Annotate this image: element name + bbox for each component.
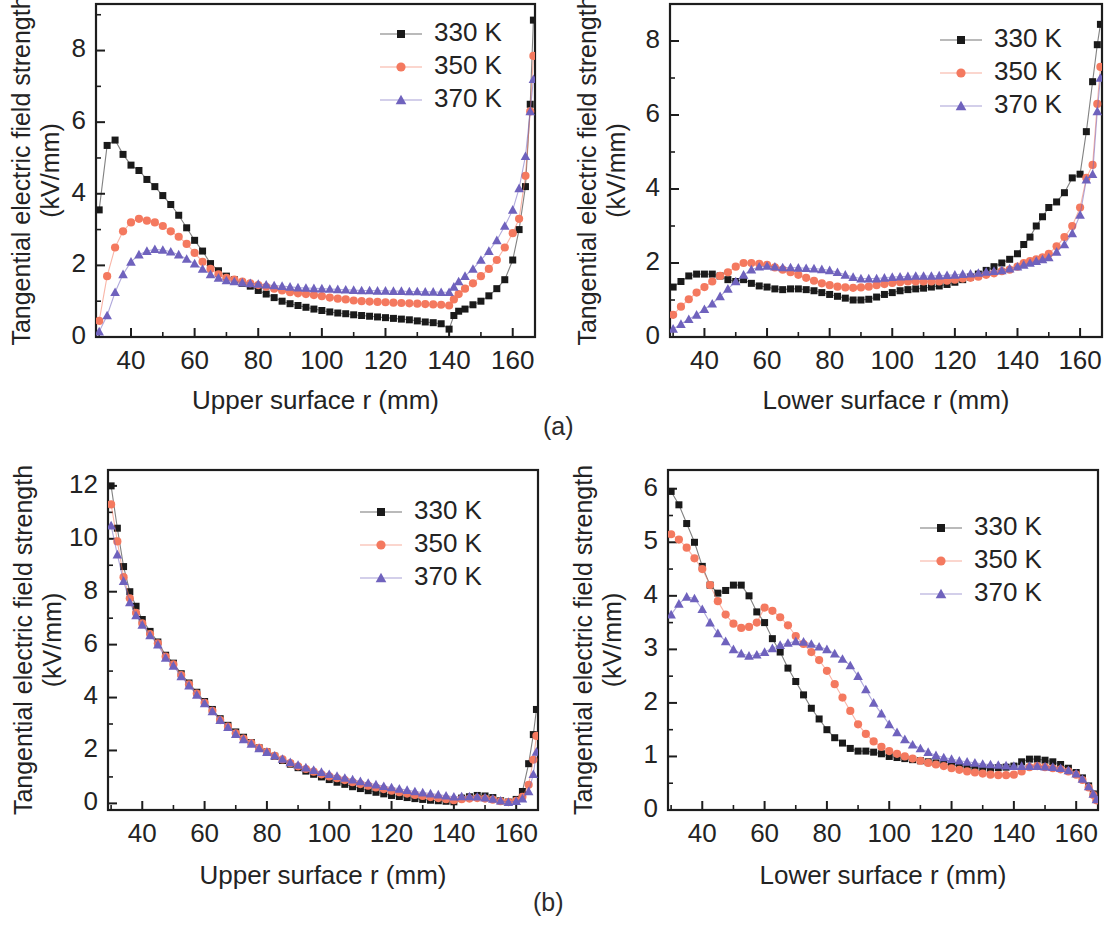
legend: 330 K350 K370 K: [380, 17, 503, 113]
y-tick-label: 6: [644, 472, 658, 502]
y-tick-label: 6: [72, 105, 86, 135]
x-tick-label: 160: [1058, 345, 1101, 375]
x-tick-label: 100: [308, 818, 351, 848]
y-tick-label: 2: [84, 733, 98, 763]
y-axis-title: Tangential electric field strength(kV/mm…: [573, 0, 630, 346]
y-tick-label: 5: [644, 525, 658, 555]
x-tick-label: 80: [812, 818, 841, 848]
legend-label: 350 K: [434, 50, 503, 80]
x-tick-label: 100: [300, 345, 343, 375]
x-axis-title: Lower surface r (mm): [759, 860, 1006, 890]
x-tick-label: 100: [871, 345, 914, 375]
x-tick-label: 160: [1054, 818, 1097, 848]
y-tick-label: 2: [644, 686, 658, 716]
svg-text:(kV/mm): (kV/mm): [602, 123, 630, 217]
x-tick-label: 140: [996, 345, 1039, 375]
y-tick-label: 4: [84, 680, 98, 710]
y-tick-label: 8: [72, 33, 86, 63]
panel-label-a: (a): [543, 412, 574, 441]
x-tick-label: 60: [190, 818, 219, 848]
legend-item-350-K: 350 K: [920, 544, 1043, 574]
chart-b-upper: 406080100120140160024681012Upper surface…: [0, 450, 560, 890]
y-tick-label: 0: [84, 786, 98, 816]
y-axis-title: Tangential electric field strength(kV/mm…: [569, 465, 626, 815]
legend-label: 370 K: [994, 89, 1063, 119]
y-tick-label: 4: [644, 579, 658, 609]
axis-ticks: 406080100120140160024681012: [69, 469, 538, 848]
y-tick-label: 2: [72, 248, 86, 278]
legend-label: 330 K: [414, 495, 483, 525]
x-tick-label: 60: [180, 345, 209, 375]
chart-a-upper: 40608010012014016002468Upper surface r (…: [0, 0, 560, 415]
x-tick-label: 80: [252, 818, 281, 848]
svg-text:Tangential electric field stre: Tangential electric field strength: [569, 465, 597, 815]
y-tick-label: 4: [646, 172, 660, 202]
legend-label: 330 K: [974, 511, 1043, 541]
x-tick-label: 120: [933, 345, 976, 375]
legend-label: 350 K: [994, 56, 1063, 86]
legend-label: 330 K: [434, 17, 503, 47]
y-tick-label: 6: [84, 628, 98, 658]
chart-panel-a-upper: 40608010012014016002468Upper surface r (…: [0, 0, 560, 415]
chart-panel-b-upper: 406080100120140160024681012Upper surface…: [0, 450, 560, 890]
x-tick-label: 60: [750, 818, 779, 848]
svg-text:(kV/mm): (kV/mm): [598, 593, 626, 687]
x-tick-label: 140: [992, 818, 1035, 848]
legend: 330 K350 K370 K: [360, 495, 483, 591]
legend: 330 K350 K370 K: [940, 23, 1063, 119]
y-tick-label: 3: [644, 632, 658, 662]
y-tick-label: 0: [646, 320, 660, 350]
legend-item-350-K: 350 K: [940, 56, 1063, 86]
x-tick-label: 60: [753, 345, 782, 375]
figure-container: 40608010012014016002468Upper surface r (…: [0, 0, 1120, 929]
x-axis-title: Upper surface r (mm): [199, 860, 446, 890]
chart-b-lower: 4060801001201401600123456Lower surface r…: [560, 450, 1120, 890]
x-tick-label: 40: [128, 818, 157, 848]
y-tick-label: 4: [72, 177, 86, 207]
legend-item-330-K: 330 K: [380, 17, 503, 47]
chart-panel-a-lower: 40608010012014016002468Lower surface r (…: [560, 0, 1120, 415]
legend-label: 350 K: [974, 544, 1043, 574]
legend-label: 370 K: [434, 83, 503, 113]
y-tick-label: 2: [646, 246, 660, 276]
legend-item-350-K: 350 K: [360, 528, 483, 558]
x-tick-label: 80: [244, 345, 273, 375]
x-tick-label: 140: [432, 818, 475, 848]
legend-item-370-K: 370 K: [920, 577, 1043, 607]
legend-item-330-K: 330 K: [920, 511, 1043, 541]
legend-label: 350 K: [414, 528, 483, 558]
svg-text:(kV/mm): (kV/mm): [36, 123, 64, 217]
svg-text:(kV/mm): (kV/mm): [38, 593, 66, 687]
svg-text:Tangential electric field stre: Tangential electric field strength: [573, 0, 601, 346]
x-tick-label: 100: [868, 818, 911, 848]
y-tick-label: 8: [84, 575, 98, 605]
x-tick-label: 140: [427, 345, 470, 375]
x-tick-label: 40: [117, 345, 146, 375]
legend-label: 370 K: [974, 577, 1043, 607]
x-tick-label: 160: [491, 345, 534, 375]
legend-item-330-K: 330 K: [360, 495, 483, 525]
y-axis-title: Tangential electric field strength(kV/mm…: [7, 0, 64, 346]
legend-label: 370 K: [414, 561, 483, 591]
y-tick-label: 8: [646, 24, 660, 54]
chart-panel-b-lower: 4060801001201401600123456Lower surface r…: [560, 450, 1120, 890]
legend: 330 K350 K370 K: [920, 511, 1043, 607]
svg-text:Tangential electric field stre: Tangential electric field strength: [9, 465, 37, 815]
legend-label: 330 K: [994, 23, 1063, 53]
x-tick-label: 120: [930, 818, 973, 848]
x-tick-label: 160: [494, 818, 537, 848]
legend-item-370-K: 370 K: [360, 561, 483, 591]
legend-item-370-K: 370 K: [940, 89, 1063, 119]
x-tick-label: 40: [688, 818, 717, 848]
y-tick-label: 1: [644, 739, 658, 769]
y-tick-label: 12: [69, 469, 98, 499]
x-tick-label: 120: [370, 818, 413, 848]
legend-item-350-K: 350 K: [380, 50, 503, 80]
x-tick-label: 40: [690, 345, 719, 375]
y-tick-label: 0: [644, 793, 658, 823]
legend-item-330-K: 330 K: [940, 23, 1063, 53]
panel-label-b: (b): [533, 888, 564, 917]
x-axis-title: Upper surface r (mm): [192, 385, 439, 415]
chart-a-lower: 40608010012014016002468Lower surface r (…: [560, 0, 1120, 415]
legend-item-370-K: 370 K: [380, 83, 503, 113]
